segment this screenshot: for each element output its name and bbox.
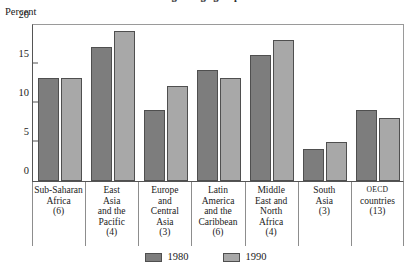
category-separator: [245, 182, 246, 246]
bar-1990: [61, 78, 82, 181]
category-label-line: Africa: [32, 196, 85, 207]
y-tick-label: 15: [19, 48, 30, 59]
category-separator: [298, 182, 299, 246]
bars-layer: [33, 25, 403, 181]
legend-label: 1990: [246, 252, 267, 263]
bar-1990: [220, 78, 241, 181]
bar-1980: [144, 110, 165, 181]
bar-group: [139, 25, 192, 181]
bar-chart-figure: Percentage of age group enrolled Percent…: [0, 0, 411, 274]
category-label-line: and: [138, 196, 191, 207]
bar-1980: [356, 110, 377, 181]
category-separator: [32, 182, 33, 246]
category-label-line: Asia: [138, 217, 191, 228]
legend-item-1990[interactable]: 1990: [223, 252, 267, 263]
bar-1990: [326, 142, 347, 182]
category-label-line: Asia: [85, 196, 138, 207]
legend-item-1980[interactable]: 1980: [145, 252, 189, 263]
category-label-line: Europe: [138, 185, 191, 196]
category-count: (3): [138, 227, 191, 238]
category-separator: [403, 182, 404, 246]
category-label: SouthAsia(3): [298, 182, 351, 246]
category-label-line: East: [85, 185, 138, 196]
category-separator: [85, 182, 86, 246]
legend-swatch: [145, 253, 162, 262]
legend-swatch: [223, 253, 240, 262]
category-label: LatinAmericaand theCaribbean(6): [191, 182, 244, 246]
category-label-line: Asia: [298, 196, 351, 207]
chart-title: Percentage of age group enrolled: [0, 0, 411, 2]
category-label-line: Caribbean: [191, 217, 244, 228]
bar-1980: [38, 78, 59, 181]
bar-1980: [303, 149, 324, 181]
bar-group: [352, 25, 405, 181]
chart-title-cropped: Percentage of age group enrolled: [0, 0, 411, 6]
category-label-line: South: [298, 185, 351, 196]
bar-group: [86, 25, 139, 181]
legend-label: 1980: [168, 252, 189, 263]
plot-area: 05101520: [32, 24, 404, 182]
bar-1980: [250, 55, 271, 181]
bar-1990: [379, 118, 400, 181]
y-tick-label: 20: [19, 9, 30, 20]
category-label-line: Sub-Saharan: [32, 185, 85, 196]
bar-group: [246, 25, 299, 181]
category-label: Sub-SaharanAfrica(6): [32, 182, 85, 246]
bar-1990: [114, 31, 135, 181]
category-label: OECDcountries(13): [351, 182, 404, 246]
category-label-line: OECD: [351, 185, 404, 196]
category-label-line: and the: [191, 206, 244, 217]
y-tick-label: 10: [19, 87, 30, 98]
category-label: EuropeandCentralAsia(3): [138, 182, 191, 246]
bar-1980: [197, 70, 218, 181]
category-label-band: Sub-SaharanAfrica(6)EastAsiaand thePacif…: [32, 182, 404, 246]
category-label-line: and the: [85, 206, 138, 217]
category-separator: [351, 182, 352, 246]
category-label: EastAsiaand thePacific(4): [85, 182, 138, 246]
bar-1990: [167, 86, 188, 181]
category-count: (6): [32, 206, 85, 217]
category-count: (13): [351, 206, 404, 217]
category-label-line: North: [245, 206, 298, 217]
category-label-line: Africa: [245, 217, 298, 228]
bar-group: [33, 25, 86, 181]
y-tick-label: 5: [24, 126, 29, 137]
bar-1980: [91, 47, 112, 181]
y-tick-label: 0: [24, 165, 29, 176]
category-label-line: Pacific: [85, 217, 138, 228]
category-label-line: East and: [245, 196, 298, 207]
chart-legend: 19801990: [0, 252, 411, 263]
category-count: (4): [85, 227, 138, 238]
category-label: MiddleEast andNorthAfrica(4): [245, 182, 298, 246]
category-count: (4): [245, 227, 298, 238]
category-count: (3): [298, 206, 351, 217]
category-label-line: Latin: [191, 185, 244, 196]
category-count: (6): [191, 227, 244, 238]
bar-group: [192, 25, 245, 181]
bar-1990: [273, 40, 294, 181]
category-separator: [138, 182, 139, 246]
category-label-line: America: [191, 196, 244, 207]
bar-group: [299, 25, 352, 181]
category-separator: [191, 182, 192, 246]
category-label-line: countries: [351, 196, 404, 207]
category-label-line: Middle: [245, 185, 298, 196]
category-label-line: Central: [138, 206, 191, 217]
